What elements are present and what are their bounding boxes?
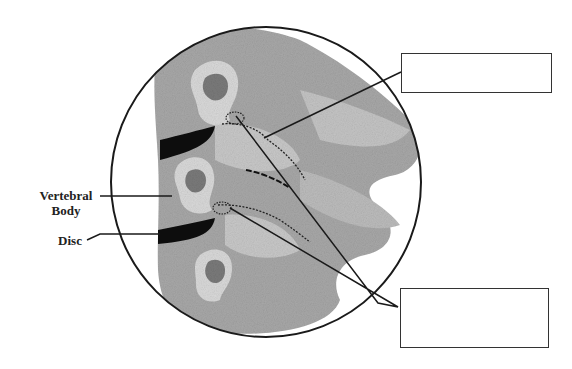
answer-box-bottom[interactable] — [400, 288, 549, 348]
label-disc: Disc — [52, 233, 88, 248]
label-vertebral-body-line1: Vertebral — [30, 188, 102, 203]
label-vertebral-body-line2: Body — [30, 203, 102, 218]
label-vertebral-body: Vertebral Body — [30, 188, 102, 218]
leader-line-disc — [87, 234, 160, 240]
answer-box-top[interactable] — [401, 53, 552, 93]
